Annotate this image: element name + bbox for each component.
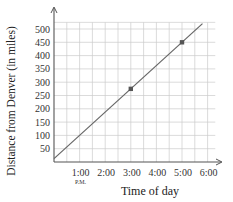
x-axis-label: Time of day bbox=[100, 184, 200, 199]
y-axis-label: Distance from Denver (in miles) bbox=[5, 11, 19, 191]
x-tick-label: 3:00 bbox=[123, 167, 141, 178]
y-tick-label: 50 bbox=[40, 143, 50, 154]
x-tick-label: 6:00 bbox=[200, 167, 218, 178]
y-tick-labels: 50100150200250300350400450500 bbox=[35, 24, 50, 155]
x-tick-label: 4:00 bbox=[149, 167, 167, 178]
y-tick-label: 300 bbox=[35, 77, 50, 88]
grid bbox=[54, 22, 215, 162]
axes bbox=[51, 7, 222, 165]
distance-time-chart: 50100150200250300350400450500 1:00P.M.2:… bbox=[0, 0, 233, 202]
pm-sublabel: P.M. bbox=[75, 179, 87, 185]
y-tick-label: 350 bbox=[35, 63, 50, 74]
y-tick-label: 500 bbox=[35, 24, 50, 35]
x-tick-label: 5:00 bbox=[174, 167, 192, 178]
x-tick-label: 1:00 bbox=[72, 167, 90, 178]
data-series bbox=[54, 24, 202, 159]
y-tick-label: 400 bbox=[35, 50, 50, 61]
data-point-marker bbox=[129, 87, 133, 91]
y-tick-label: 250 bbox=[35, 90, 50, 101]
y-tick-label: 100 bbox=[35, 130, 50, 141]
data-point-marker bbox=[180, 40, 184, 44]
y-tick-label: 200 bbox=[35, 103, 50, 114]
y-tick-label: 150 bbox=[35, 117, 50, 128]
y-tick-label: 450 bbox=[35, 37, 50, 48]
x-tick-label: 2:00 bbox=[97, 167, 115, 178]
x-tick-labels: 1:00P.M.2:003:004:005:006:00 bbox=[72, 167, 218, 185]
